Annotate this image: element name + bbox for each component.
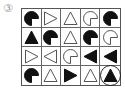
filled-pacman-icon bbox=[24, 11, 39, 26]
grid-cell bbox=[81, 47, 101, 66]
grid-cell bbox=[100, 66, 120, 85]
filled-triangle-left-icon bbox=[103, 49, 118, 64]
outlined-triangle-up-icon bbox=[63, 11, 78, 26]
outlined-triangle-right-icon bbox=[43, 11, 58, 26]
grid-cell bbox=[81, 9, 101, 28]
filled-pacman-icon bbox=[103, 11, 118, 26]
outlined-triangle-up-icon bbox=[63, 30, 78, 45]
outlined-pacman-icon bbox=[103, 30, 118, 45]
grid-cell bbox=[100, 47, 120, 66]
outlined-triangle-up-icon bbox=[43, 68, 58, 83]
highlight-circle bbox=[100, 65, 121, 86]
outlined-pacman-icon bbox=[63, 49, 78, 64]
filled-triangle-up-icon bbox=[24, 30, 39, 45]
outlined-triangle-right-icon bbox=[24, 49, 39, 64]
grid-cell bbox=[100, 9, 120, 28]
filled-triangle-left-icon bbox=[83, 49, 98, 64]
grid-cell bbox=[61, 28, 81, 47]
grid-cell bbox=[42, 28, 62, 47]
grid-cell bbox=[22, 47, 42, 66]
grid-cell bbox=[81, 66, 101, 85]
grid-cell bbox=[42, 66, 62, 85]
grid-cell bbox=[42, 9, 62, 28]
grid-cell bbox=[22, 9, 42, 28]
outlined-triangle-up-icon bbox=[83, 68, 98, 83]
grid-cell bbox=[100, 28, 120, 47]
shape-grid bbox=[21, 8, 121, 86]
grid-cell bbox=[81, 28, 101, 47]
grid-cell bbox=[42, 47, 62, 66]
outlined-pacman-icon bbox=[83, 11, 98, 26]
outlined-triangle-left-icon bbox=[43, 49, 58, 64]
grid-cell bbox=[61, 66, 81, 85]
grid-cell bbox=[22, 28, 42, 47]
filled-triangle-right-icon bbox=[63, 68, 78, 83]
filled-pacman-icon bbox=[83, 30, 98, 45]
grid-cell bbox=[22, 66, 42, 85]
grid-cell bbox=[61, 9, 81, 28]
filled-pacman-icon bbox=[43, 30, 58, 45]
grid-cell bbox=[61, 47, 81, 66]
filled-pacman-icon bbox=[24, 68, 39, 83]
answer-option-number: ③ bbox=[2, 3, 14, 15]
